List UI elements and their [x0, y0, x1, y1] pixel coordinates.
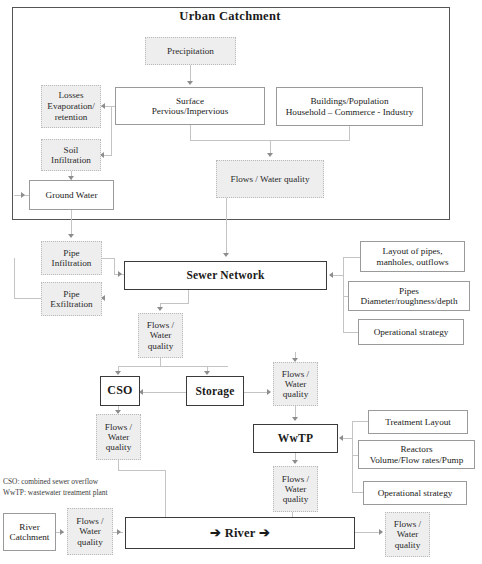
- arrow-wwtp-flows: [292, 460, 298, 464]
- node-storage-label: Storage: [189, 385, 241, 398]
- node-flows-river-in-label: Flows / Water quality: [70, 516, 110, 547]
- arrow-sewerinfo-sewer: [329, 272, 333, 278]
- node-pipe-infiltration[interactable]: Pipe Infiltration: [41, 241, 102, 275]
- node-river-label: ➔ River ➔: [128, 526, 352, 540]
- arrow-join-flows: [267, 153, 273, 157]
- legend-line-cso: CSO: combined sewer overflow: [3, 477, 213, 488]
- node-flows-storage-label: Flows / Water quality: [276, 369, 315, 400]
- node-sewer-network-label: Sewer Network: [127, 269, 324, 282]
- node-treatment-layout-label: Treatment Layout: [371, 417, 465, 427]
- node-pipes-diameter-label: Pipes Diameter/roughness/depth: [351, 286, 467, 307]
- arrow-into-ground-water: [21, 192, 25, 198]
- node-flows-river-in[interactable]: Flows / Water quality: [67, 508, 113, 555]
- node-layout-of-pipes-label: Layout of pipes, manholes, outflows: [363, 246, 462, 267]
- arrow-flowsstorage-wwtp: [292, 417, 298, 421]
- node-river[interactable]: ➔ River ➔: [125, 517, 355, 549]
- node-surface-label: Surface Pervious/Impervious: [118, 96, 262, 117]
- arrow-surface-losses: [101, 103, 105, 109]
- node-wwtp-operational-strategy[interactable]: Operational strategy: [363, 481, 467, 505]
- node-flows-wwtp-label: Flows / Water quality: [276, 474, 315, 505]
- connector-surface-soil-vert: [111, 106, 112, 155]
- node-soil-infiltration[interactable]: Soil Infiltration: [41, 139, 101, 171]
- node-flows-wwtp[interactable]: Flows / Water quality: [273, 466, 318, 512]
- diagram-canvas: Urban Catchment Precipitation Surface Pe…: [0, 0, 482, 564]
- node-pipes-diameter[interactable]: Pipes Diameter/roughness/depth: [348, 281, 470, 311]
- node-pipe-exfiltration[interactable]: Pipe Exfiltration: [41, 282, 102, 316]
- connector-pipeinf-sewer-v: [114, 258, 115, 275]
- node-sewer-operational-strategy[interactable]: Operational strategy: [358, 319, 464, 345]
- connector-flowscso-river-h: [118, 470, 166, 471]
- connector-sewerinfo-to-sewer: [332, 275, 344, 276]
- node-river-catchment-label: River Catchment: [6, 522, 53, 543]
- node-cso[interactable]: CSO: [100, 376, 140, 406]
- page-title: Urban Catchment: [12, 9, 448, 24]
- node-flows-sewer-label: Flows / Water quality: [141, 320, 180, 351]
- arrow-wwtpinfo-wwtp: [339, 435, 343, 441]
- node-flows-catchment-label: Flows / Water quality: [219, 174, 321, 184]
- connector-flowssewer-bus-h: [118, 366, 228, 367]
- connector-wwtpinfo-1: [352, 421, 369, 422]
- connector-sewer-pipeexf-v: [14, 258, 15, 299]
- node-treatment-layout[interactable]: Treatment Layout: [368, 410, 468, 434]
- node-layout-of-pipes[interactable]: Layout of pipes, manholes, outflows: [360, 241, 465, 272]
- node-soil-infiltration-label: Soil Infiltration: [44, 145, 98, 166]
- node-precipitation-label: Precipitation: [148, 46, 233, 56]
- connector-sewerinfo-bus: [343, 257, 344, 332]
- arrow-flowsin-river: [117, 529, 121, 535]
- connector-surface-down: [190, 125, 191, 140]
- arrow-into-cso: [115, 371, 121, 375]
- connector-sewer-flows-v1: [188, 290, 189, 303]
- node-losses-evaporation[interactable]: Losses Evaporation/ retention: [41, 85, 101, 128]
- node-pipe-infiltration-label: Pipe Infiltration: [44, 248, 99, 269]
- arrow-groundwater-pipeinf: [68, 234, 74, 238]
- node-cso-label: CSO: [103, 384, 137, 397]
- node-storage[interactable]: Storage: [186, 376, 244, 406]
- connector-groundwater-pipeinf: [71, 210, 72, 237]
- node-ground-water-label: Ground Water: [32, 190, 111, 200]
- node-losses-evaporation-label: Losses Evaporation/ retention: [44, 90, 98, 123]
- node-wwtp-operational-strategy-label: Operational strategy: [366, 488, 464, 498]
- arrow-precip-surface: [187, 81, 193, 85]
- node-reactors[interactable]: Reactors Volume/Flow rates/Pump: [358, 440, 475, 469]
- node-flows-catchment[interactable]: Flows / Water quality: [216, 160, 324, 198]
- node-flows-sewer[interactable]: Flows / Water quality: [138, 313, 183, 358]
- node-pipe-exfiltration-label: Pipe Exfiltration: [44, 289, 99, 310]
- arrow-rivercatch-flows: [60, 529, 64, 535]
- connector-sewerinfo-1: [343, 257, 361, 258]
- arrow-sewer-flows: [157, 307, 163, 311]
- connector-sewer-flows-h: [160, 303, 189, 304]
- node-buildings-population[interactable]: Buildings/Population Household – Commerc…: [276, 87, 423, 126]
- node-surface[interactable]: Surface Pervious/Impervious: [115, 87, 265, 125]
- arrow-catchflows-sewer: [223, 253, 229, 257]
- connector-flowssewer-bus-v: [160, 358, 161, 366]
- node-wwtp-label: WwTP: [256, 432, 335, 445]
- node-flows-cso-label: Flows / Water quality: [99, 422, 138, 453]
- connector-river-flowsout: [355, 532, 382, 533]
- connector-wwtpinfo-bus: [352, 421, 353, 493]
- node-wwtp[interactable]: WwTP: [253, 424, 338, 453]
- connector-storage-cso: [142, 392, 186, 393]
- node-reactors-label: Reactors Volume/Flow rates/Pump: [361, 444, 472, 465]
- node-flows-river-out[interactable]: Flows / Water quality: [385, 512, 430, 557]
- connector-buildings-down: [349, 126, 350, 140]
- node-river-catchment[interactable]: River Catchment: [3, 513, 56, 551]
- connector-wwtpinfo-to-wwtp: [342, 438, 353, 439]
- node-ground-water[interactable]: Ground Water: [29, 180, 114, 210]
- legend-line-wwtp: WwTP: wastewater treatment plant: [3, 488, 213, 499]
- node-precipitation[interactable]: Precipitation: [145, 37, 236, 65]
- node-flows-river-out-label: Flows / Water quality: [388, 519, 427, 550]
- arrow-river-flowsout: [379, 529, 383, 535]
- node-buildings-population-label: Buildings/Population Household – Commerc…: [279, 96, 420, 117]
- arrow-pipeinf-sewer: [118, 271, 122, 277]
- connector-sewerinfo-3: [343, 332, 359, 333]
- arrow-into-storage: [204, 371, 210, 375]
- node-flows-cso[interactable]: Flows / Water quality: [96, 414, 141, 460]
- arrow-storage-flows: [267, 389, 271, 395]
- node-sewer-network[interactable]: Sewer Network: [124, 261, 327, 290]
- connector-catchflows-sewer: [226, 198, 227, 253]
- legend: CSO: combined sewer overflow WwTP: waste…: [3, 477, 213, 498]
- node-flows-storage[interactable]: Flows / Water quality: [273, 362, 318, 406]
- node-sewer-operational-strategy-label: Operational strategy: [361, 327, 461, 337]
